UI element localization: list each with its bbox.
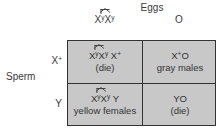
cell-phenotype: gray males: [143, 62, 217, 74]
row-header-x-plus: X+: [40, 55, 62, 66]
cell-attached-x-y: XyXy Y yellow females: [68, 84, 142, 126]
cell-phenotype: (die): [143, 105, 217, 117]
cell-phenotype: yellow females: [68, 105, 142, 117]
cell-x-plus-o: X+O gray males: [143, 41, 217, 83]
cell-genotype: XyXy Y: [68, 93, 142, 105]
attached-x-chromosome: XyXy: [95, 14, 115, 25]
cell-phenotype: (die): [68, 62, 142, 74]
cell-genotype: XyXy X+: [68, 50, 142, 62]
row-header-y: Y: [40, 98, 62, 109]
column-header-attached-x: XyXy: [67, 14, 142, 25]
punnett-square: XyXy X+ (die) X+O gray males XyXy Y yell…: [67, 40, 216, 126]
sperm-label: Sperm: [6, 71, 35, 82]
cell-y-o: YO (die): [143, 84, 217, 126]
attachment-caret-icon: [95, 87, 107, 92]
column-header-o: O: [142, 14, 216, 25]
cell-genotype: YO: [143, 93, 217, 105]
cell-attached-x-x-plus: XyXy X+ (die): [68, 41, 142, 83]
attachment-caret-icon: [93, 44, 105, 49]
cell-genotype: X+O: [143, 50, 217, 62]
attachment-caret-icon: [99, 8, 111, 13]
eggs-label: Eggs: [132, 2, 172, 13]
